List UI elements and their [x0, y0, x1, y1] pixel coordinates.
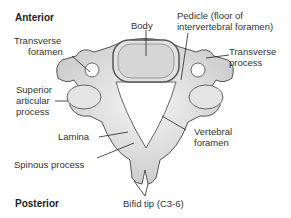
label-vertebral-foramen-1: Vertebral: [194, 126, 232, 137]
articular-facet-right: [189, 85, 223, 109]
label-vertebral-foramen-2: foramen: [194, 137, 229, 148]
label-superior-articular-3: process: [16, 106, 49, 117]
label-spinous-process: Spinous process: [14, 159, 84, 170]
transverse-foramen-left: [85, 63, 99, 77]
label-transverse-foramen-1: Transverse: [14, 35, 61, 46]
label-transverse-process-2: process: [229, 57, 262, 68]
orientation-anterior: Anterior: [15, 12, 54, 23]
transverse-foramen-right: [191, 63, 205, 77]
label-body: Body: [131, 20, 153, 31]
label-lamina: Lamina: [58, 131, 89, 142]
label-transverse-foramen-2: foramen: [28, 46, 63, 57]
label-bifid-tip: Bifid tip (C3-6): [123, 198, 184, 209]
label-superior-articular-1: Superior: [16, 84, 52, 95]
label-superior-articular-2: articular: [16, 95, 50, 106]
label-transverse-process-1: Transverse: [229, 46, 276, 57]
label-pedicle-1: Pedicle (floor of: [177, 10, 243, 21]
orientation-posterior: Posterior: [15, 198, 59, 209]
label-pedicle-2: intervertebral foramen): [177, 21, 273, 32]
articular-facet-left: [67, 85, 101, 109]
